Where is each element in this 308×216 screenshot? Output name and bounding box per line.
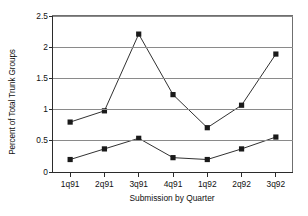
data-point-marker	[205, 125, 210, 130]
y-axis-tick-label: 2	[22, 43, 48, 52]
y-axis-tick	[49, 140, 53, 141]
x-axis-tick	[104, 173, 105, 177]
y-axis-tick-label: 1.5	[22, 74, 48, 83]
data-point-marker	[170, 92, 175, 97]
gridline	[53, 109, 293, 110]
x-axis-tick	[207, 173, 208, 177]
x-axis-tick	[173, 173, 174, 177]
y-axis-tick-label: 0.5	[22, 136, 48, 145]
x-axis-title: Submission by Quarter	[52, 193, 292, 204]
data-point-marker	[68, 157, 73, 162]
x-axis-tick	[70, 173, 71, 177]
x-axis-tick	[138, 173, 139, 177]
x-axis-tick	[275, 173, 276, 177]
gridline	[53, 78, 293, 79]
y-axis-tick	[49, 47, 53, 48]
y-axis-tick	[49, 78, 53, 79]
data-point-marker	[68, 119, 73, 124]
chart-figure: Percent of Total Trunk Groups 00.511.522…	[0, 0, 308, 216]
gridline	[53, 47, 293, 48]
y-axis-tick	[49, 172, 53, 173]
gridline	[53, 16, 293, 17]
data-point-marker	[205, 157, 210, 162]
y-axis-tick-label: 2.5	[22, 12, 48, 21]
y-axis-tick	[49, 16, 53, 17]
data-point-marker	[273, 51, 278, 56]
y-axis-tick-labels: 00.511.522.5	[22, 10, 48, 174]
series-line	[70, 34, 276, 128]
y-axis-tick-label: 0	[22, 168, 48, 177]
data-point-marker	[136, 32, 141, 37]
x-axis-tick	[241, 173, 242, 177]
plot-area: 1q912q913q914q911q922q923q92	[52, 16, 293, 173]
y-axis-title: Percent of Total Trunk Groups	[6, 14, 20, 190]
data-point-marker	[170, 155, 175, 160]
data-point-marker	[239, 103, 244, 108]
data-point-marker	[102, 146, 107, 151]
data-point-marker	[239, 146, 244, 151]
data-point-marker	[273, 134, 278, 139]
x-axis-tick-label: 3q92	[253, 179, 299, 189]
y-axis-tick	[49, 109, 53, 110]
y-axis-tick-label: 1	[22, 105, 48, 114]
series-plot	[53, 16, 293, 172]
gridline	[53, 140, 293, 141]
